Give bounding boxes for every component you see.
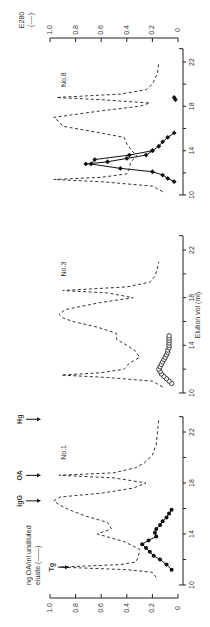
diamond-marker: [127, 153, 132, 158]
filled-circle-marker: [164, 563, 168, 567]
diamond-marker: [105, 159, 110, 164]
e280-dashed-line: [59, 262, 163, 387]
filled-circle-marker: [152, 554, 156, 558]
x-tick-label: 10: [188, 581, 195, 589]
x-tick-label: 14: [188, 530, 195, 538]
diamond-marker: [83, 162, 88, 167]
left-y-axis-label: ng OA/ml undiluted: [25, 525, 33, 585]
panel-title: No.1: [60, 445, 67, 460]
right-y-tick-label: 0: [174, 28, 181, 32]
left-y-tick-label: 0.4: [123, 603, 130, 613]
filled-circle-marker: [170, 568, 174, 572]
filled-circle-marker: [170, 508, 174, 512]
e280-dashed-line: [54, 62, 163, 192]
right-y-tick-label: 1.0: [46, 25, 53, 35]
left-y-axis-label: eluate (——): [34, 545, 42, 585]
filled-circle-marker: [164, 515, 168, 519]
left-y-tick-label: 1.0: [46, 603, 53, 613]
marker-label: IgG: [16, 494, 24, 506]
x-tick-label: 18: [188, 479, 195, 487]
left-y-tick-label: 0.8: [72, 603, 79, 613]
diamond-marker: [160, 173, 165, 178]
marker-label: OA: [16, 470, 23, 481]
left-y-tick-label: 0: [174, 606, 181, 610]
filled-circle-marker: [154, 527, 158, 531]
filled-circle-marker: [148, 550, 152, 554]
filled-circle-marker: [140, 542, 144, 546]
diamond-marker: [172, 179, 177, 184]
x-tick-label: 18: [188, 102, 195, 110]
right-y-tick-label: 0.6: [97, 25, 104, 35]
x-axis-label: Elution vol (ml): [194, 292, 202, 338]
left-y-tick-label: 0.2: [148, 603, 155, 613]
x-tick-label: 22: [188, 246, 195, 254]
diamond-marker: [150, 169, 155, 174]
filled-circle-marker: [153, 531, 157, 535]
right-y-axis-label: E280: [18, 12, 25, 28]
filled-circle-marker: [154, 535, 158, 539]
right-y-tick-label: 0.8: [72, 25, 79, 35]
filled-circle-marker: [167, 512, 171, 516]
filled-circle-marker: [161, 519, 165, 523]
panel-title: No.3: [60, 262, 67, 277]
marker-label: Tg: [48, 563, 56, 572]
panel-title: No.8: [60, 72, 67, 87]
chromatogram-figure: 10141822No.810141822No.310141822No.1TgIg…: [0, 0, 210, 627]
filled-circle-marker: [147, 538, 151, 542]
x-tick-label: 14: [188, 341, 195, 349]
marker-arrowhead-icon: [37, 499, 41, 503]
filled-circle-marker: [158, 523, 162, 527]
right-y-axis-label: (----): [27, 13, 35, 27]
open-circle-marker: [167, 334, 171, 338]
marker-arrowhead-icon: [65, 565, 69, 569]
right-y-tick-label: 0.4: [123, 25, 130, 35]
x-tick-label: 10: [188, 191, 195, 199]
left-y-tick-label: 0.6: [97, 603, 104, 613]
filled-circle-marker: [144, 546, 148, 550]
diamond-marker: [118, 166, 123, 171]
right-y-tick-label: 0.2: [148, 25, 155, 35]
marker-label: Hg: [16, 415, 24, 424]
x-tick-label: 22: [188, 58, 195, 66]
e280-dashed-line: [54, 419, 159, 577]
filled-circle-marker: [158, 558, 162, 562]
x-tick-label: 14: [188, 147, 195, 155]
x-tick-label: 10: [188, 389, 195, 397]
marker-arrowhead-icon: [37, 417, 41, 421]
marker-arrowhead-icon: [37, 473, 41, 477]
x-tick-label: 22: [188, 428, 195, 436]
diamond-marker: [124, 156, 129, 161]
